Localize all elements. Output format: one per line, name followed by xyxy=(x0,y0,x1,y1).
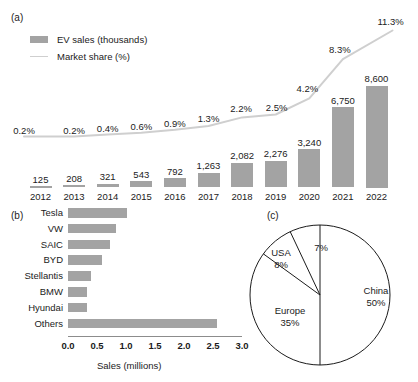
panel-a-bar-value-label: 1,263 xyxy=(185,160,233,171)
panel-a-bar xyxy=(30,186,52,188)
panel-b-plot-area: TeslaVWSAICBYDStellantisBMWHyundaiOthers… xyxy=(0,205,232,382)
panel-a-bar-value-label: 6,750 xyxy=(319,95,367,106)
pie-slice-value: 8% xyxy=(259,259,303,271)
panel-a-bar-value-label: 3,240 xyxy=(285,137,333,148)
panel-a-market-share-label: 1.3% xyxy=(185,113,233,124)
pie-slice-name: USA xyxy=(259,247,303,259)
panel-a-market-share-label: 0.2% xyxy=(0,125,48,136)
panel-a-bar xyxy=(164,178,186,187)
panel-b-x-axis-line xyxy=(68,336,242,337)
panel-b-sales-by-manufacturer: (b) TeslaVWSAICBYDStellantisBMWHyundaiOt… xyxy=(0,205,232,382)
panel-a-market-share-label: 4.2% xyxy=(283,83,331,94)
panel-b-category-label: VW xyxy=(0,223,63,234)
panel-a-market-share-label: 2.5% xyxy=(253,102,301,113)
panel-c-regional-share-pie: (c) China50%Europe35%USA8%7% xyxy=(232,205,418,382)
panel-a-market-share-label: 11.3% xyxy=(367,16,415,27)
pie-slice-label: 7% xyxy=(306,242,336,254)
panel-b-category-label: Stellantis xyxy=(0,270,63,281)
panel-a-bar-value-label: 8,600 xyxy=(353,73,401,84)
panel-a-bar xyxy=(130,181,152,187)
panel-b-category-label: BYD xyxy=(0,254,63,265)
panel-a-bar xyxy=(332,107,354,187)
panel-a-bar xyxy=(265,161,287,188)
pie-slice-value: 7% xyxy=(306,242,336,254)
panel-b-x-axis-title: Sales (millions) xyxy=(97,360,161,371)
panel-a-market-share-label: 8.3% xyxy=(316,44,364,55)
panel-b-bar xyxy=(68,240,110,250)
panel-a-ev-sales-and-market-share: (a) EV sales (thousands) Market share (%… xyxy=(0,0,418,205)
panel-a-bar xyxy=(198,173,220,188)
panel-b-category-label: BMW xyxy=(0,286,63,297)
panel-a-bar xyxy=(298,149,320,187)
pie-slice-name: Europe xyxy=(260,305,320,317)
panel-b-category-label: Others xyxy=(0,318,63,329)
panel-a-year-tick-label: 2022 xyxy=(353,191,401,202)
panel-b-bar xyxy=(68,303,87,313)
panel-b-category-label: Tesla xyxy=(0,207,63,218)
panel-b-bar xyxy=(68,287,87,297)
panel-b-bar xyxy=(68,271,91,281)
pie-slice-label: USA8% xyxy=(259,247,303,270)
ev-market-figure: (a) EV sales (thousands) Market share (%… xyxy=(0,0,418,382)
panel-b-bar xyxy=(68,208,127,218)
pie-slice-label: China50% xyxy=(352,285,400,308)
pie-slice-label: Europe35% xyxy=(260,305,320,328)
pie-slice-value: 35% xyxy=(260,317,320,329)
panel-a-bar xyxy=(63,185,85,187)
pie-slice-value: 50% xyxy=(352,297,400,309)
panel-a-bar xyxy=(97,184,119,188)
pie-slice-name: China xyxy=(352,285,400,297)
panel-a-bar-value-label: 2,276 xyxy=(252,148,300,159)
panel-b-bar xyxy=(68,255,102,265)
panel-b-bar xyxy=(68,319,217,329)
panel-a-plot-area: 125201220820133212014543201579220161,263… xyxy=(0,0,418,205)
panel-b-category-label: SAIC xyxy=(0,239,63,250)
panel-b-bar xyxy=(68,224,116,234)
panel-a-bar xyxy=(366,86,388,188)
panel-a-bar xyxy=(231,163,253,188)
panel-b-category-label: Hyundai xyxy=(0,302,63,313)
